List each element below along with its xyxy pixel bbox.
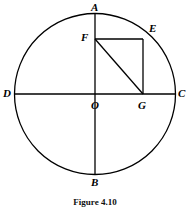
diagonal-FG [95,39,143,94]
point-label-A: A [91,2,98,13]
point-label-C: C [178,88,185,99]
figure-caption: Figure 4.10 [0,197,190,207]
point-label-F: F [81,32,88,43]
figure-4-10: A E F D C O G B Figure 4.10 [0,0,190,207]
point-label-B: B [91,177,98,188]
point-label-G: G [138,100,146,111]
point-label-D: D [3,88,11,99]
point-label-E: E [149,23,156,34]
point-label-O: O [91,100,99,111]
